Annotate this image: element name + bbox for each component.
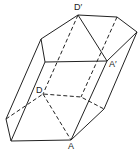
label-d: D <box>36 86 43 95</box>
prism-figure <box>0 0 138 152</box>
edge-lateral <box>104 32 137 109</box>
edge-lateral <box>11 62 45 141</box>
diagonal-d-a <box>43 94 71 140</box>
top-face <box>41 15 137 62</box>
label-a-prime: A′ <box>109 60 117 69</box>
label-a: A <box>68 142 74 151</box>
edge-a-prime-a <box>71 61 107 140</box>
label-d-prime: D′ <box>74 3 82 12</box>
prism-diagram: D′ A′ D A <box>0 0 138 152</box>
bottom-hidden-edges <box>6 94 104 119</box>
diagonal-d-prime-a-prime <box>78 15 107 61</box>
